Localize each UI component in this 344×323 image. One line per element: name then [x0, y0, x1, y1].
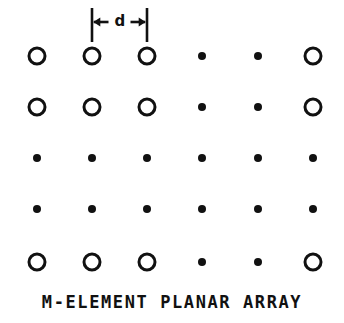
array-element-circle — [139, 48, 155, 64]
ellipsis-dot — [254, 258, 262, 266]
figure-caption: M-ELEMENT PLANAR ARRAY — [0, 292, 344, 312]
ellipsis-dot — [88, 154, 96, 162]
array-element-circle — [84, 48, 100, 64]
array-element-circle — [139, 99, 155, 115]
array-diagram-canvas — [0, 0, 344, 323]
ellipsis-dot — [143, 205, 151, 213]
ellipsis-dot — [198, 52, 206, 60]
dimension-arrow-right-head — [139, 17, 146, 26]
ellipsis-dot — [254, 52, 262, 60]
array-element-circle — [305, 48, 321, 64]
ellipsis-dot — [254, 205, 262, 213]
dimension-arrow-left-head — [93, 17, 100, 26]
ellipsis-dot — [198, 103, 206, 111]
ellipsis-dot — [254, 154, 262, 162]
ellipsis-dot — [309, 154, 317, 162]
array-element-circle — [84, 254, 100, 270]
array-element-circle — [139, 254, 155, 270]
ellipsis-dot — [143, 154, 151, 162]
ellipsis-dot — [88, 205, 96, 213]
array-element-circle — [84, 99, 100, 115]
ellipsis-dot — [33, 154, 41, 162]
ellipsis-dot — [254, 103, 262, 111]
array-element-circle — [29, 48, 45, 64]
array-element-circle — [29, 99, 45, 115]
array-element-circle — [305, 99, 321, 115]
array-element-circle — [305, 254, 321, 270]
ellipsis-dot — [198, 258, 206, 266]
ellipsis-dot — [198, 205, 206, 213]
element-grid — [29, 48, 321, 270]
ellipsis-dot — [309, 205, 317, 213]
dimension-label-d: d — [115, 14, 126, 29]
ellipsis-dot — [198, 154, 206, 162]
array-element-circle — [29, 254, 45, 270]
planar-array-figure: d M-ELEMENT PLANAR ARRAY — [0, 0, 344, 323]
ellipsis-dot — [33, 205, 41, 213]
